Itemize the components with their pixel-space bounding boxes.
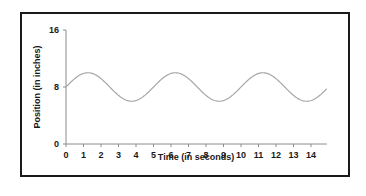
y-tick-label: 8	[54, 82, 59, 92]
x-tick-label: 0	[63, 150, 68, 160]
position-curve	[66, 73, 327, 102]
x-tick-label: 12	[271, 150, 281, 160]
x-tick-label: 2	[98, 150, 103, 160]
y-axis-title: Position (in inches)	[32, 45, 42, 128]
x-tick-label: 5	[151, 150, 156, 160]
x-tick-label: 10	[236, 150, 246, 160]
x-tick-label: 13	[288, 150, 298, 160]
series-layer	[66, 73, 327, 102]
x-tick-label: 3	[116, 150, 121, 160]
line-chart: 0816 01234567891011121314 Time (in secon…	[0, 0, 366, 196]
x-tick-label: 4	[133, 150, 138, 160]
x-tick-label: 1	[81, 150, 86, 160]
x-tick-label: 11	[254, 150, 264, 160]
y-tick-label: 0	[54, 139, 59, 149]
y-tick-label: 16	[49, 25, 59, 35]
x-axis-title: Time (in seconds)	[158, 152, 234, 162]
y-axis: 0816	[49, 25, 66, 149]
x-tick-label: 14	[306, 150, 316, 160]
